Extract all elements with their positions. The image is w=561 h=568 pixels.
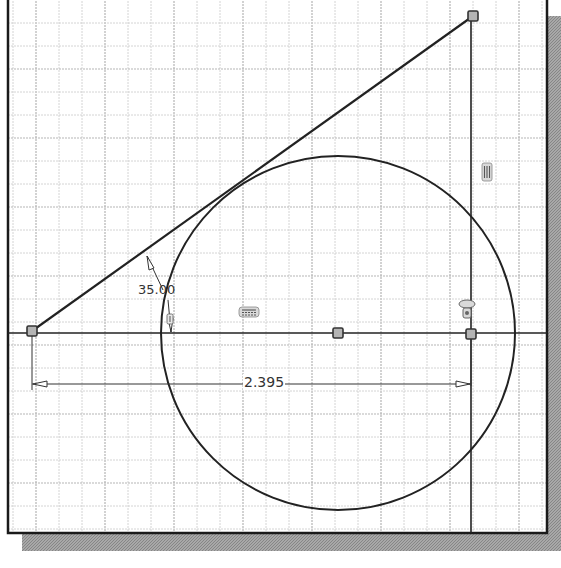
linear-dimension-label[interactable]: 2.395 — [243, 374, 285, 390]
sketch-canvas[interactable]: 35.00 2.395 — [0, 0, 561, 568]
paper-rect — [8, 0, 547, 533]
horizontal-constraint-icon[interactable] — [239, 307, 259, 317]
left-endpoint[interactable] — [27, 326, 37, 336]
circle-center-point[interactable] — [333, 328, 343, 338]
top-right-endpoint[interactable] — [468, 11, 478, 21]
right-intersection-point[interactable] — [466, 329, 476, 339]
glyph-dot — [465, 311, 469, 315]
angle-dimension-label[interactable]: 35.00 — [138, 282, 175, 297]
tangent-constraint-icon[interactable] — [167, 314, 173, 324]
sketch-paper — [8, 0, 547, 533]
glyph-ring — [459, 300, 475, 308]
vertical-constraint-icon[interactable] — [482, 163, 492, 181]
